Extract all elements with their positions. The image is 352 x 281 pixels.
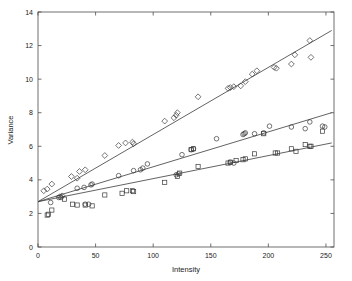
data-point-square — [70, 202, 74, 206]
data-point-circle — [289, 125, 294, 130]
x-tick-label: 50 — [92, 252, 100, 259]
data-point-diamond — [49, 181, 55, 187]
data-point-circle — [180, 152, 185, 157]
data-point-circle — [48, 200, 53, 205]
data-point-square — [320, 129, 324, 133]
data-point-square — [252, 152, 256, 156]
x-tick-label: 150 — [205, 252, 217, 259]
data-point-circle — [308, 120, 313, 125]
data-point-diamond — [102, 153, 108, 159]
regression-line-square — [38, 143, 332, 202]
y-tick-label: 10 — [25, 76, 33, 83]
data-point-diamond — [162, 118, 168, 124]
axes-frame — [38, 12, 334, 247]
data-point-square — [120, 191, 124, 195]
y-tick-label: 6 — [29, 143, 33, 150]
y-tick-label: 0 — [29, 244, 33, 251]
y-axis-title: Variance — [6, 115, 15, 144]
data-point-square — [125, 189, 129, 193]
data-point-diamond — [69, 174, 75, 180]
data-point-diamond — [174, 110, 180, 116]
data-point-square — [289, 147, 293, 151]
tick-marks — [38, 12, 334, 247]
y-tick-label: 14 — [25, 9, 33, 16]
data-point-diamond — [82, 167, 88, 173]
x-tick-label: 200 — [263, 252, 275, 259]
data-point-diamond — [123, 140, 129, 146]
data-point-square — [163, 180, 167, 184]
y-tick-label: 4 — [29, 176, 33, 183]
data-point-square — [50, 208, 54, 212]
data-point-square — [303, 143, 307, 147]
data-point-diamond — [195, 94, 201, 100]
data-point-diamond — [288, 61, 294, 67]
data-point-circle — [303, 126, 308, 131]
x-tick-label: 250 — [320, 252, 332, 259]
data-point-square — [103, 193, 107, 197]
data-point-diamond — [77, 169, 83, 175]
data-point-square — [75, 203, 79, 207]
y-tick-label: 2 — [29, 210, 33, 217]
regression-line-diamond — [38, 30, 332, 201]
figure-container: 05010015020025002468101214 Intensity Var… — [0, 0, 352, 281]
x-tick-label: 0 — [36, 252, 40, 259]
data-point-circle — [131, 168, 136, 173]
y-tick-label: 8 — [29, 109, 33, 116]
tick-labels: 05010015020025002468101214 — [25, 9, 332, 260]
scatter-plot: 05010015020025002468101214 Intensity Var… — [0, 0, 352, 281]
data-point-circle — [145, 162, 150, 167]
data-point-circle — [267, 124, 272, 129]
x-axis-title: Intensity — [172, 265, 200, 274]
data-point-square — [196, 164, 200, 168]
data-point-diamond — [307, 38, 313, 44]
regression-lines — [38, 30, 332, 201]
data-point-circle — [214, 136, 219, 141]
data-point-diamond — [116, 143, 122, 149]
x-tick-label: 100 — [147, 252, 159, 259]
data-point-circle — [252, 131, 257, 136]
data-point-diamond — [308, 54, 314, 60]
data-point-diamond — [249, 71, 255, 77]
y-tick-label: 12 — [25, 42, 33, 49]
